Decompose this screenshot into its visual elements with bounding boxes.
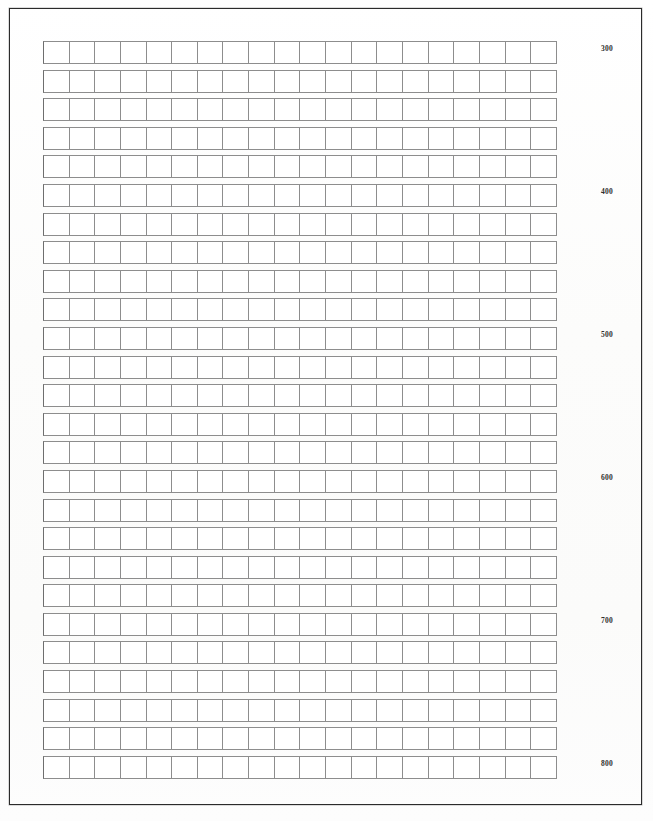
grid-cell[interactable] <box>146 70 173 93</box>
grid-cell[interactable] <box>171 184 198 207</box>
grid-cell[interactable] <box>299 98 326 121</box>
grid-cell[interactable] <box>69 327 96 350</box>
grid-cell[interactable] <box>376 527 403 550</box>
grid-cell[interactable] <box>43 241 70 264</box>
grid-cell[interactable] <box>69 127 96 150</box>
grid-cell[interactable] <box>505 727 532 750</box>
grid-cell[interactable] <box>94 70 121 93</box>
grid-cell[interactable] <box>197 184 224 207</box>
grid-cell[interactable] <box>402 527 429 550</box>
grid-cell[interactable] <box>299 613 326 636</box>
grid-cell[interactable] <box>222 756 249 779</box>
grid-cell[interactable] <box>530 384 557 407</box>
grid-cell[interactable] <box>453 613 480 636</box>
grid-cell[interactable] <box>197 213 224 236</box>
grid-cell[interactable] <box>428 584 455 607</box>
grid-cell[interactable] <box>376 241 403 264</box>
grid-cell[interactable] <box>274 527 301 550</box>
grid-cell[interactable] <box>376 727 403 750</box>
grid-cell[interactable] <box>171 527 198 550</box>
grid-cell[interactable] <box>530 499 557 522</box>
grid-cell[interactable] <box>197 441 224 464</box>
grid-cell[interactable] <box>453 499 480 522</box>
grid-cell[interactable] <box>402 298 429 321</box>
grid-cell[interactable] <box>402 184 429 207</box>
grid-cell[interactable] <box>274 641 301 664</box>
grid-cell[interactable] <box>479 70 506 93</box>
grid-cell[interactable] <box>43 699 70 722</box>
grid-cell[interactable] <box>248 727 275 750</box>
grid-cell[interactable] <box>43 556 70 579</box>
grid-cell[interactable] <box>453 356 480 379</box>
grid-cell[interactable] <box>69 527 96 550</box>
grid-cell[interactable] <box>69 298 96 321</box>
grid-cell[interactable] <box>146 527 173 550</box>
grid-cell[interactable] <box>94 499 121 522</box>
grid-cell[interactable] <box>248 327 275 350</box>
grid-cell[interactable] <box>94 756 121 779</box>
grid-cell[interactable] <box>146 356 173 379</box>
grid-cell[interactable] <box>197 413 224 436</box>
grid-cell[interactable] <box>479 584 506 607</box>
grid-cell[interactable] <box>146 213 173 236</box>
grid-cell[interactable] <box>505 98 532 121</box>
grid-cell[interactable] <box>146 613 173 636</box>
grid-cell[interactable] <box>120 241 147 264</box>
grid-cell[interactable] <box>428 470 455 493</box>
grid-cell[interactable] <box>274 298 301 321</box>
grid-cell[interactable] <box>479 41 506 64</box>
grid-cell[interactable] <box>428 298 455 321</box>
grid-cell[interactable] <box>376 98 403 121</box>
grid-cell[interactable] <box>146 441 173 464</box>
grid-cell[interactable] <box>299 356 326 379</box>
grid-cell[interactable] <box>248 384 275 407</box>
grid-cell[interactable] <box>222 98 249 121</box>
grid-cell[interactable] <box>402 499 429 522</box>
grid-cell[interactable] <box>146 270 173 293</box>
grid-cell[interactable] <box>299 756 326 779</box>
grid-cell[interactable] <box>146 670 173 693</box>
grid-cell[interactable] <box>453 413 480 436</box>
grid-cell[interactable] <box>351 441 378 464</box>
grid-cell[interactable] <box>325 441 352 464</box>
grid-cell[interactable] <box>274 584 301 607</box>
grid-cell[interactable] <box>94 413 121 436</box>
grid-cell[interactable] <box>120 155 147 178</box>
grid-cell[interactable] <box>505 699 532 722</box>
grid-cell[interactable] <box>376 70 403 93</box>
grid-cell[interactable] <box>248 413 275 436</box>
grid-cell[interactable] <box>248 41 275 64</box>
grid-cell[interactable] <box>530 184 557 207</box>
grid-cell[interactable] <box>376 641 403 664</box>
grid-cell[interactable] <box>274 327 301 350</box>
grid-cell[interactable] <box>94 584 121 607</box>
grid-cell[interactable] <box>94 298 121 321</box>
grid-cell[interactable] <box>402 441 429 464</box>
grid-cell[interactable] <box>69 70 96 93</box>
grid-cell[interactable] <box>43 641 70 664</box>
grid-cell[interactable] <box>69 584 96 607</box>
grid-cell[interactable] <box>43 527 70 550</box>
grid-cell[interactable] <box>351 499 378 522</box>
grid-cell[interactable] <box>274 756 301 779</box>
grid-cell[interactable] <box>120 70 147 93</box>
grid-cell[interactable] <box>376 327 403 350</box>
grid-cell[interactable] <box>453 470 480 493</box>
grid-cell[interactable] <box>351 727 378 750</box>
grid-cell[interactable] <box>479 556 506 579</box>
grid-cell[interactable] <box>351 641 378 664</box>
grid-cell[interactable] <box>530 584 557 607</box>
grid-cell[interactable] <box>376 41 403 64</box>
grid-cell[interactable] <box>146 470 173 493</box>
grid-cell[interactable] <box>222 155 249 178</box>
grid-cell[interactable] <box>376 298 403 321</box>
grid-cell[interactable] <box>197 641 224 664</box>
grid-cell[interactable] <box>171 356 198 379</box>
grid-cell[interactable] <box>505 213 532 236</box>
grid-cell[interactable] <box>376 584 403 607</box>
grid-cell[interactable] <box>248 213 275 236</box>
grid-cell[interactable] <box>351 470 378 493</box>
grid-cell[interactable] <box>505 756 532 779</box>
grid-cell[interactable] <box>120 384 147 407</box>
grid-cell[interactable] <box>376 613 403 636</box>
